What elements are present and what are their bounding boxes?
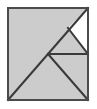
tangram-diagram: Dissected Square Tangram Figure — [0, 0, 97, 109]
figure-root: Dissected Square Tangram Figure — [0, 0, 97, 109]
